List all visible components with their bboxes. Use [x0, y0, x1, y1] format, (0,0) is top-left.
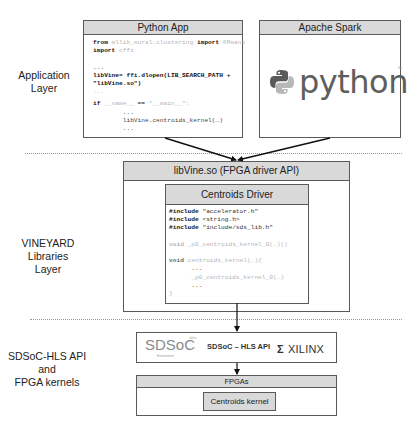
arrow-python-app-to-libvine [165, 138, 236, 160]
arrow-spark-to-libvine [238, 138, 330, 160]
flow-arrows [0, 0, 417, 434]
